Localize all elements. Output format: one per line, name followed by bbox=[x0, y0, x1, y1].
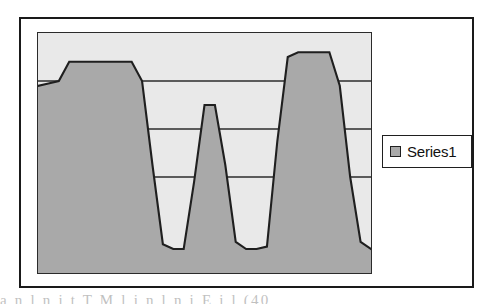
plot-area bbox=[37, 32, 372, 274]
legend-label: Series1 bbox=[407, 144, 456, 159]
chart-frame: Series1 bbox=[19, 17, 474, 288]
figure-root: Series1 a n l n i t T M l i n l n i E i … bbox=[0, 0, 490, 304]
series-area-fill bbox=[38, 52, 371, 273]
legend[interactable]: Series1 bbox=[382, 135, 472, 168]
area-chart-svg bbox=[38, 33, 371, 273]
caption-fragment: a n l n i t T M l i n l n i E i l (40 bbox=[0, 292, 490, 304]
legend-swatch-icon bbox=[390, 146, 401, 157]
